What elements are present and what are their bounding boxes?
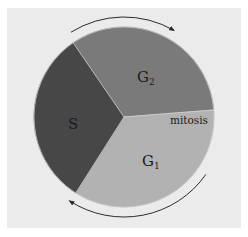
label-mitosis: mitosis	[170, 114, 208, 126]
cell-cycle-diagram: G2 mitosis G1 S	[0, 0, 248, 237]
label-s: S	[68, 115, 78, 133]
